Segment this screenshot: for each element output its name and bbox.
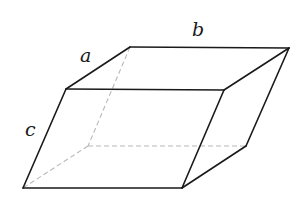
label-b: b xyxy=(192,18,204,40)
label-c: c xyxy=(25,118,36,140)
edge-b xyxy=(130,47,289,48)
visible-edges xyxy=(23,47,289,188)
hidden-edge-vertical xyxy=(88,47,130,146)
parallelepiped-diagram: a b c xyxy=(0,0,298,224)
label-a: a xyxy=(80,44,91,66)
edge-a xyxy=(66,47,130,89)
edge-top-front xyxy=(66,89,224,90)
